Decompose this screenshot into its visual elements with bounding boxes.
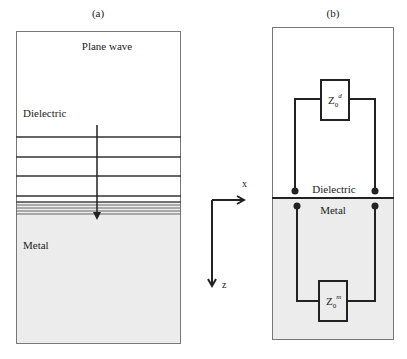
panel-a: (a) Plane wave Dielectric Metal <box>16 7 181 344</box>
metal-label-a: Metal <box>23 239 49 251</box>
dielectric-layers <box>16 137 181 196</box>
panel-b: (b) Z0d Dielectric Metal Z0m <box>272 7 394 340</box>
z-axis-label: z <box>222 279 227 290</box>
dielectric-label-a: Dielectric <box>23 107 66 119</box>
coordinate-axes: x z <box>212 178 247 290</box>
terminal-dot <box>372 188 379 195</box>
dielectric-circuit <box>295 80 375 191</box>
metal-label-b: Metal <box>320 204 346 216</box>
x-axis-label: x <box>242 178 247 189</box>
terminal-dot <box>294 203 301 210</box>
metal-region <box>16 202 181 344</box>
panel-a-label: (a) <box>92 7 105 20</box>
terminal-dot <box>372 203 379 210</box>
terminal-dot <box>292 188 299 195</box>
panel-b-label: (b) <box>327 7 340 20</box>
plane-wave-label: Plane wave <box>82 40 133 52</box>
dielectric-label-b: Dielectric <box>312 183 355 195</box>
diagram-canvas: (a) Plane wave Dielectric Metal x z (b) <box>0 0 407 359</box>
